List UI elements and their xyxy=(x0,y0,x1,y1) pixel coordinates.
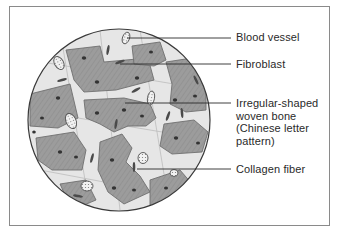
label-collagen-fiber: Collagen fiber xyxy=(236,163,305,176)
label-woven-bone: Irregular-shaped woven bone (Chinese let… xyxy=(236,97,318,147)
label-blood-vessel: Blood vessel xyxy=(236,31,300,44)
tissue-section xyxy=(20,20,220,220)
label-fibroblast: Fibroblast xyxy=(236,58,285,71)
